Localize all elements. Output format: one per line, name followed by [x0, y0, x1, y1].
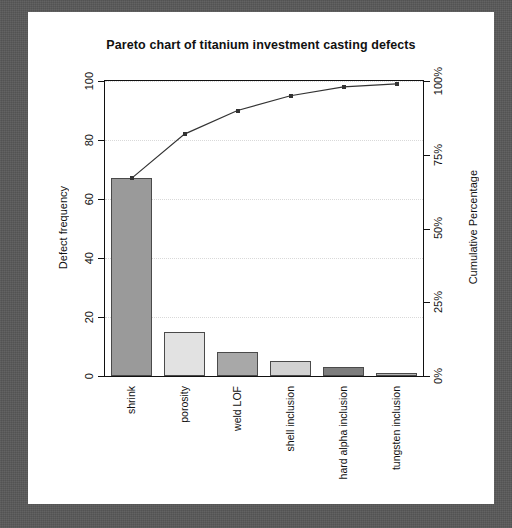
cumulative-line-path	[132, 84, 397, 178]
y-axis-tick	[98, 140, 105, 141]
y-axis-tick-text: 0	[84, 373, 95, 379]
x-axis-tick-label: weld LOF	[211, 386, 264, 431]
y2-axis-tick	[423, 229, 430, 230]
cumulative-line	[105, 81, 423, 376]
y-axis-tick	[98, 376, 105, 377]
y-axis-tick-text: 40	[84, 252, 95, 264]
y2-axis-tick-text: 75%	[433, 144, 444, 166]
x-axis-tick-text: porosity	[179, 386, 190, 423]
x-axis-tick-text: tungsten inclusion	[391, 386, 402, 470]
y-axis-tick-text: 20	[84, 311, 95, 323]
data-point-porosity[interactable]	[183, 132, 187, 136]
y-axis-tick	[98, 81, 105, 82]
x-axis-tick-label: shell inclusion	[264, 386, 317, 451]
x-axis-tick-label: shrink	[105, 386, 158, 414]
plot-area: 020406080100 0%25%50%75%100% shrinkporos…	[104, 80, 424, 377]
y2-axis-title-label: Cumulative Percentage	[468, 170, 479, 284]
data-point-tungsten-inclusion[interactable]	[395, 82, 399, 86]
y2-axis-tick-text: 25%	[433, 291, 444, 313]
y-axis-tick	[98, 258, 105, 259]
y2-axis-tick	[423, 376, 430, 377]
x-axis-tick-text: shrink	[126, 386, 137, 414]
y2-axis-tick-text: 0%	[433, 368, 444, 384]
y2-axis-tick	[423, 302, 430, 303]
y-axis-tick	[98, 199, 105, 200]
y-axis-tick-text: 60	[84, 193, 95, 205]
y-axis-tick-text: 100	[84, 72, 95, 90]
y-axis-tick	[98, 317, 105, 318]
chart-title: Pareto chart of titanium investment cast…	[28, 38, 494, 52]
x-axis-tick-text: weld LOF	[232, 386, 243, 431]
y2-axis-title: Cumulative Percentage	[468, 80, 479, 375]
y2-axis-tick	[423, 155, 430, 156]
y-axis-title: Defect frequency	[58, 80, 69, 375]
y-axis-tick-text: 80	[84, 134, 95, 146]
data-point-shrink[interactable]	[130, 176, 134, 180]
x-axis-tick-label: hard alpha inclusion	[317, 386, 370, 479]
x-axis-tick-label: porosity	[158, 386, 211, 423]
x-axis-tick-text: shell inclusion	[285, 386, 296, 451]
data-point-weld-LOF[interactable]	[236, 109, 240, 113]
y2-axis-tick	[423, 81, 430, 82]
y-axis-title-label: Defect frequency	[58, 186, 69, 269]
x-axis-tick-label: tungsten inclusion	[370, 386, 423, 470]
y2-axis-tick-text: 100%	[433, 67, 444, 95]
chart-panel: Pareto chart of titanium investment cast…	[28, 12, 494, 504]
data-point-shell-inclusion[interactable]	[289, 94, 293, 98]
y2-axis-tick-text: 50%	[433, 217, 444, 239]
data-point-hard-alpha-inclusion[interactable]	[342, 85, 346, 89]
x-axis-tick-text: hard alpha inclusion	[338, 386, 349, 479]
